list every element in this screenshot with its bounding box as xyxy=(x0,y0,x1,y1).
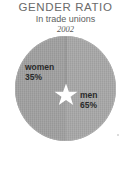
pie-slice-divider xyxy=(65,36,66,89)
page-title: GENDER RATIO xyxy=(0,0,131,13)
chart-year-annotation: 2002 xyxy=(0,24,131,34)
scan-artifact-speck xyxy=(117,134,119,136)
pie-label-women: women 35% xyxy=(25,63,54,82)
pie-label-men: men 65% xyxy=(80,91,97,110)
gender-ratio-figure: GENDER RATIO In trade unions 2002 women … xyxy=(0,0,131,169)
pie-label-men-value: 65% xyxy=(80,101,97,111)
star-icon xyxy=(54,83,78,106)
chart-header: GENDER RATIO In trade unions 2002 xyxy=(0,0,131,34)
chart-subtitle: In trade unions xyxy=(0,13,131,24)
pie-label-women-value: 35% xyxy=(25,73,54,83)
